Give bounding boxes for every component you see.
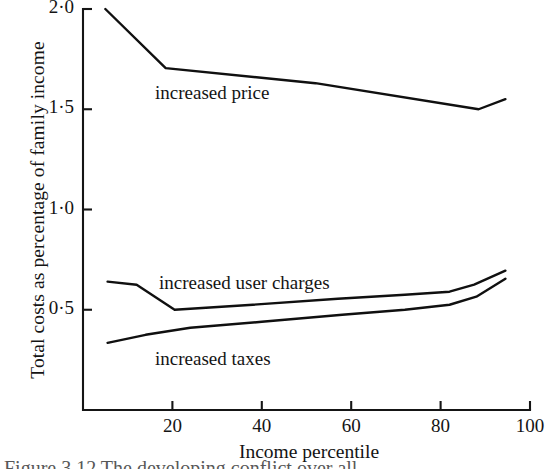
series-annotation-increased-price: increased price [155,82,269,104]
x-tick-label: 60 [342,415,361,437]
x-tick-label: 80 [431,415,450,437]
figure-caption-text: Figure 3.12 The developing conflict over… [0,459,552,469]
x-tick-label-group: 20406080100 [0,0,552,469]
series-annotation-increased-taxes: increased taxes [155,348,271,370]
series-annotation-increased-user-charges: increased user charges [159,272,330,294]
x-tick-label: 20 [163,415,182,437]
x-tick-label: 100 [516,415,545,437]
figure-caption-remnant: Figure 3.12 The developing conflict over… [0,459,552,469]
x-tick-label: 40 [252,415,271,437]
figure-container: Total costs as percentage of family inco… [0,0,552,469]
